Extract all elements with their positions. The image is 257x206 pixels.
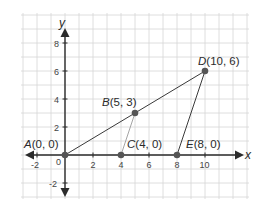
x-axis-arrow-left-icon — [25, 151, 34, 160]
origin-label: 0 — [56, 157, 61, 167]
point-D-label: D(10, 6) — [198, 55, 240, 67]
point-D-name: D — [198, 55, 206, 67]
y-tick-label: 4 — [54, 95, 59, 105]
x-tick-label: 2 — [91, 160, 96, 170]
tick-labels: -2 2 4 6 8 10 0 8 6 4 2 -2 — [31, 39, 210, 189]
point-A-name: A — [23, 138, 32, 150]
point-C-label: C(4, 0) — [127, 138, 162, 150]
x-tick-label: 10 — [200, 160, 210, 170]
y-tick-label: 6 — [54, 67, 59, 77]
point-A-label: A(0, 0) — [23, 138, 59, 150]
point-B-coords: (5, 3) — [110, 96, 137, 108]
x-tick-label: 4 — [119, 160, 124, 170]
point-A-coords: (0, 0) — [32, 138, 59, 150]
point-C — [118, 152, 125, 159]
x-axis-arrow-right-icon — [235, 151, 244, 160]
point-E-label: E(8, 0) — [186, 138, 221, 150]
y-tick-label: 8 — [54, 39, 59, 49]
point-C-coords: (4, 0) — [135, 138, 162, 150]
point-E — [174, 152, 181, 159]
x-tick-label: 8 — [175, 160, 180, 170]
point-D — [202, 68, 209, 75]
y-tick-label: 2 — [54, 123, 59, 133]
point-A — [62, 152, 69, 159]
point-B-label: B(5, 3) — [102, 96, 137, 108]
x-tick-label: 6 — [147, 160, 152, 170]
point-E-coords: (8, 0) — [194, 138, 221, 150]
y-axis-label: y — [58, 16, 66, 30]
point-B — [132, 110, 139, 117]
point-D-coords: (10, 6) — [206, 55, 239, 67]
y-axis-arrow-down-icon — [61, 188, 70, 197]
x-axis-label: x — [244, 148, 252, 162]
x-tick-label: -2 — [31, 160, 39, 170]
coordinate-plane-diagram: x y -2 2 4 6 8 10 0 8 6 4 2 -2 — [0, 0, 257, 206]
y-tick-label: -2 — [49, 179, 57, 189]
